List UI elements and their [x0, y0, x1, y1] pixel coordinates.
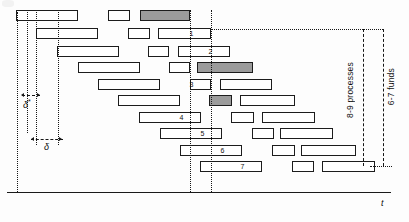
delta-label: δ: [44, 142, 49, 152]
delta-arrow-left: [31, 137, 34, 141]
delta-star-superscript: *: [28, 98, 31, 105]
task-bar: [240, 95, 295, 106]
delta-star-arrow-right: [37, 93, 40, 97]
task-bar: [78, 62, 140, 73]
delta-star-arrow-left: [21, 93, 24, 97]
task-bar: [148, 46, 169, 57]
cut-line-2: [211, 10, 212, 192]
cut-line-1: [190, 10, 191, 192]
delta-arrow-right: [59, 137, 62, 141]
task-bar-shaded: [209, 95, 232, 106]
task-bar: [57, 46, 119, 57]
guide-line-3: [36, 12, 37, 145]
task-bar: [169, 62, 190, 73]
task-bar-shaded: [140, 10, 190, 21]
task-bar: [190, 79, 211, 90]
frame-top-dotted: [211, 29, 383, 30]
task-bar: [220, 79, 272, 90]
task-bar: [292, 161, 314, 172]
task-bar: [16, 10, 78, 21]
task-bar: [231, 112, 254, 123]
task-bar: [128, 28, 150, 39]
label-funds: 6-7 funds: [386, 68, 396, 105]
task-bar: [262, 112, 315, 123]
frame-right-dashed: [383, 29, 384, 166]
axis-label-t: t: [381, 198, 384, 208]
task-bar: [252, 128, 274, 139]
task-bar: [200, 161, 262, 172]
label-processes: 8-9 processes: [345, 62, 355, 118]
guide-line-2: [27, 12, 28, 133]
guide-line-1: [17, 12, 18, 192]
figure-canvas: 1234567 8-9 processes 6-7 funds δ* δ t: [0, 0, 409, 222]
task-bar: [118, 95, 180, 106]
time-axis: [7, 192, 391, 193]
task-bar: [272, 145, 295, 156]
scan-artifact: [2, 0, 14, 7]
task-bar: [98, 79, 160, 90]
task-bar: [158, 28, 211, 39]
task-bar-shaded: [197, 62, 253, 73]
bracket-inner-dashed: [363, 29, 364, 166]
task-bar: [322, 161, 375, 172]
task-bar: [178, 46, 230, 57]
guide-line-4: [58, 12, 59, 145]
task-bar: [280, 128, 333, 139]
task-bar: [301, 145, 356, 156]
task-bar: [139, 112, 201, 123]
task-bar: [108, 10, 130, 21]
frame-bottom-dotted: [370, 166, 392, 167]
task-bar: [36, 28, 98, 39]
task-bar: [160, 128, 222, 139]
